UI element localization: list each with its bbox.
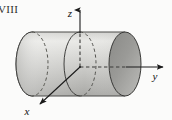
x-axis-label: x: [24, 105, 30, 117]
figure-container: z y x VIII: [0, 0, 172, 120]
y-axis-label: y: [152, 70, 158, 82]
z-axis-label: z: [67, 7, 73, 19]
origin-point: [79, 66, 81, 68]
cylinder-solid: [16, 32, 141, 96]
cylinder-right-cap: [109, 32, 141, 96]
cylinder-diagram: z y x VIII: [0, 0, 172, 120]
plate-label: VIII: [0, 3, 18, 15]
